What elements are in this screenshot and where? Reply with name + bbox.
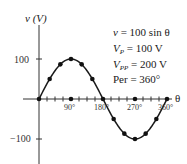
data-point (122, 131, 127, 136)
data-point (133, 137, 138, 142)
x-tick-360: 360° (158, 104, 173, 112)
x-tick-270: 270° (127, 104, 142, 112)
data-point (90, 77, 95, 82)
data-point (37, 97, 42, 102)
y-tick-neg100: −100 (10, 134, 31, 144)
data-point (58, 62, 63, 67)
period-annotation: Per = 360° (113, 74, 160, 85)
y-tick-100: 100 (14, 55, 29, 65)
data-point (111, 117, 116, 122)
peak-voltage-annotation: VP = 100 V (113, 43, 163, 56)
data-point (133, 97, 138, 102)
x-tick-180: 180° (94, 104, 109, 112)
data-point (143, 131, 148, 136)
data-point (154, 117, 159, 122)
data-point (69, 57, 74, 62)
x-axis-label: θ (175, 93, 180, 104)
data-point (79, 62, 84, 67)
data-point (101, 97, 106, 102)
y-axis-label: v (V) (25, 13, 47, 24)
equation-annotation: v = 100 sin θ (113, 27, 170, 38)
data-point (165, 97, 170, 102)
data-point (69, 97, 74, 102)
peak-to-peak-annotation: VPP = 200 V (113, 59, 167, 72)
data-point (47, 77, 52, 82)
x-tick-90: 90° (64, 104, 75, 112)
